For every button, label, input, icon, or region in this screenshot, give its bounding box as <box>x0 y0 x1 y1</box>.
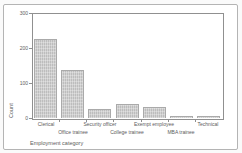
x-tick-label: MBA trainee <box>159 129 203 135</box>
chart-canvas: 0100200300ClericalOffice traineeSecurity… <box>3 4 238 150</box>
y-tick-label: 200 <box>12 45 28 51</box>
bar-office-trainee <box>61 70 84 118</box>
x-tick-label: Clerical <box>24 121 68 127</box>
y-tick-label: 100 <box>12 80 28 86</box>
y-tick-mark <box>29 83 32 84</box>
y-tick-mark <box>29 48 32 49</box>
x-tick-label: Technical <box>186 121 230 127</box>
bar-clerical <box>34 39 57 118</box>
x-tick-label: College trainee <box>105 129 149 135</box>
y-tick-label: 300 <box>12 10 28 16</box>
bar-technical <box>197 116 220 118</box>
x-tick-label: Office trainee <box>51 129 95 135</box>
y-axis-title: Count <box>8 103 14 118</box>
bar-mba-trainee <box>170 116 193 118</box>
y-tick-mark <box>29 118 32 119</box>
x-axis-title: Employment category <box>30 140 83 147</box>
bar-security-officer <box>88 109 111 118</box>
x-tick-label: Security officer <box>78 121 122 127</box>
y-tick-mark <box>29 13 32 14</box>
bar-exempt-employee <box>143 107 166 118</box>
bar-college-trainee <box>116 104 139 118</box>
x-tick-label: Exempt employee <box>132 121 176 127</box>
